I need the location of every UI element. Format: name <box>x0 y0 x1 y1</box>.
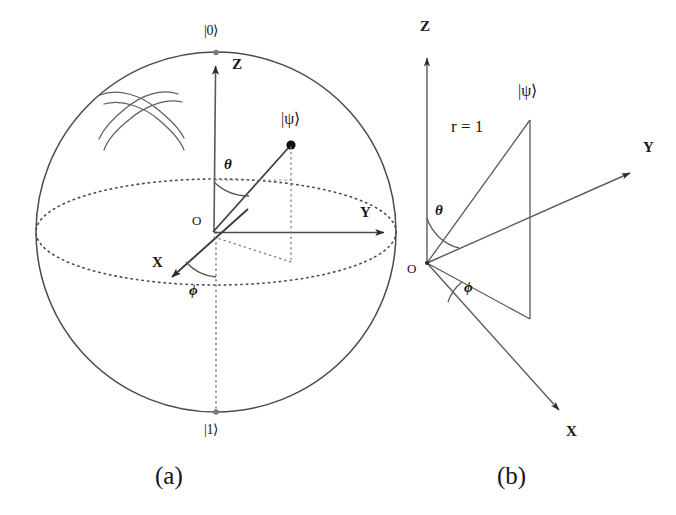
axis-z-line <box>214 66 216 232</box>
b-label-angle-phi: ϕ <box>464 280 473 295</box>
label-axis-x: X <box>152 255 163 270</box>
label-ket-psi: |ψ⟩ <box>281 111 300 127</box>
projection-radial-dotted <box>214 237 291 262</box>
b-axis-y-line <box>427 173 630 263</box>
caption-panel-a: (a) <box>155 463 183 488</box>
b-axis-x-line <box>427 263 559 410</box>
label-angle-phi: ϕ <box>189 283 198 298</box>
label-ket-1: |1⟩ <box>204 423 218 437</box>
label-axis-z: Z <box>232 57 242 72</box>
angle-theta-arc <box>214 182 249 196</box>
panel-a-group <box>36 50 396 415</box>
b-label-origin: O <box>407 262 416 275</box>
axis-x-line <box>172 209 248 277</box>
panel-b-group <box>425 58 630 410</box>
label-axis-y: Y <box>360 205 371 220</box>
b-label-ket-psi: |ψ⟩ <box>518 83 537 99</box>
b-label-radius: r = 1 <box>451 118 483 135</box>
b-angle-theta-arc <box>427 218 459 248</box>
pole-north-dot <box>213 50 219 56</box>
b-label-axis-x: X <box>566 424 577 439</box>
label-origin: O <box>192 214 201 227</box>
figure-root: |0⟩ Z |ψ⟩ θ O Y X ϕ |1⟩ (a) Z |ψ⟩ r = 1 … <box>0 0 676 515</box>
pole-south-dot <box>213 409 219 415</box>
caption-panel-b: (b) <box>497 463 526 488</box>
b-label-axis-y: Y <box>643 140 654 155</box>
label-ket-0: |0⟩ <box>204 24 218 38</box>
label-angle-theta: θ <box>224 157 232 172</box>
crossed-arcs-scribble-icon <box>99 92 184 150</box>
b-label-angle-theta: θ <box>435 203 443 218</box>
angle-phi-arc <box>186 262 216 277</box>
b-radius-vector-line <box>427 120 530 263</box>
b-origin-dot <box>425 261 429 265</box>
b-projection-radial-line <box>427 263 530 319</box>
b-label-axis-z: Z <box>420 19 430 34</box>
